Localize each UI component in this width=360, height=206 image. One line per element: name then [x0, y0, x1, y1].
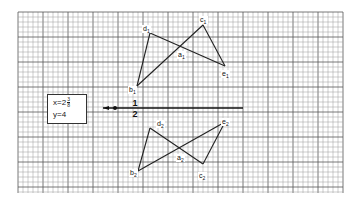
y-value: y=4 [53, 109, 86, 121]
arrow-left-icon [103, 106, 109, 110]
axis-dot [113, 106, 117, 110]
x-fraction: 38 [67, 97, 70, 108]
axis-label-1: 1 [132, 98, 137, 108]
axis-label-2: 2 [132, 109, 137, 119]
x-value: x=238 [53, 97, 86, 109]
view-2: d2e2a2b2c2 [129, 118, 230, 181]
coordinate-info-box: x=238 y=4 [47, 94, 87, 124]
edge-d1-e1 [150, 33, 225, 66]
edge-e1-c1 [203, 25, 225, 66]
